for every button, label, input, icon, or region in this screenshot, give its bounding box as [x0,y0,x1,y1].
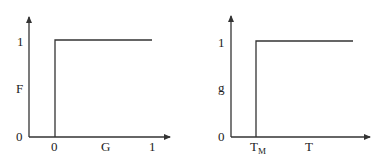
left-chart: 1 F 0 0 G 1 [16,17,170,154]
figure: 1 F 0 0 G 1 1 g 0 TM T [0,0,384,163]
left-xtick-0: 0 [51,139,58,154]
right-ylabel: g [218,80,225,95]
left-xlabel: G [101,139,110,154]
left-xtick-1: 1 [149,139,156,154]
right-chart: 1 g 0 TM T [218,16,370,156]
right-step-line [256,41,353,137]
right-xtick-tm: TM [250,139,266,156]
right-ytick-0: 0 [218,129,225,144]
right-ytick-1: 1 [218,35,225,50]
left-ytick-1: 1 [17,34,24,49]
left-ytick-0: 0 [16,129,23,144]
right-xlabel: T [305,139,313,154]
left-step-line [55,40,152,137]
left-ylabel: F [16,81,23,96]
